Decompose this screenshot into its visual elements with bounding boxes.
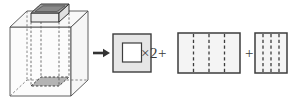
hole-collar-front-wall: [31, 13, 59, 22]
prism-with-hole: [10, 4, 88, 96]
inner-lateral-surface: [255, 33, 287, 73]
plus-operator-label: +: [245, 46, 253, 61]
multiplier-times-two-label: ×2+: [141, 46, 167, 61]
outer-lateral-surface: [178, 33, 240, 73]
equals-arrow: [93, 49, 110, 57]
diagram-canvas: ×2+ +: [0, 0, 293, 109]
square-face-hole: [123, 43, 142, 62]
